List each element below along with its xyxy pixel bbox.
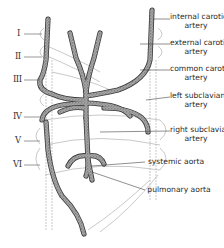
label-line: artery (170, 101, 222, 110)
arch-numeral-4: IV (13, 111, 22, 121)
vessels-fill (40, 10, 152, 234)
label-pulmonary-aorta: pulmonary aorta (146, 186, 212, 195)
label-right-subclavian: right subclavian artery (170, 126, 222, 143)
label-common-carotid: common carotid artery (170, 65, 222, 82)
label-line: artery (170, 22, 222, 31)
label-line: systemic aorta (146, 158, 206, 167)
label-systemic-aorta: systemic aorta (146, 158, 206, 167)
label-external-carotid: external carotid artery (170, 39, 222, 56)
label-internal-carotid: internal carotid artery (170, 13, 222, 30)
label-line: artery (170, 74, 222, 83)
label-line: artery (170, 135, 222, 144)
arch-numeral-3: III (13, 74, 22, 84)
arch-numeral-1: I (17, 28, 20, 38)
numeral-leaders (24, 34, 42, 165)
arch-numeral-5: V (15, 135, 21, 145)
arch-numeral-2: II (15, 51, 21, 61)
arch-numeral-6: VI (13, 159, 22, 169)
label-left-subclavian: left subclavian artery (170, 92, 222, 109)
label-line: pulmonary aorta (146, 186, 212, 195)
label-line: artery (170, 48, 222, 57)
